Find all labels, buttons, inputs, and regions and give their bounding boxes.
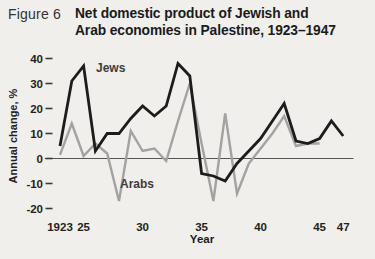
y-tick-label: 40	[0, 52, 43, 66]
figure-6: Figure 6 Net domestic product of Jewish …	[0, 0, 375, 259]
series-label-jews: Jews	[96, 61, 125, 75]
y-tick-label: -10	[0, 177, 43, 191]
y-tick-label: 10	[0, 127, 43, 141]
x-axis-title: Year	[182, 233, 222, 245]
x-tick-label: 25	[66, 221, 102, 234]
y-tick-label: 30	[0, 77, 43, 91]
x-tick-label: 40	[243, 221, 279, 234]
series-label-arabs: Arabs	[120, 177, 154, 191]
y-tick-label: 0	[0, 152, 43, 166]
x-tick-label: 47	[325, 221, 361, 234]
x-tick-label: 30	[125, 221, 161, 234]
y-tick-label: -20	[0, 202, 43, 216]
y-tick-label: 20	[0, 102, 43, 116]
